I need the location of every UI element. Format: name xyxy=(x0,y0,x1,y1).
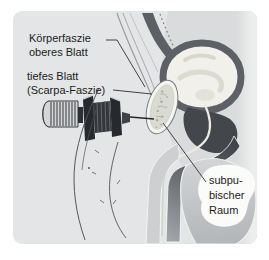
label-tiefes-blatt-scarpa-faszie: tiefes Blatt (Scarpa-Faszie) xyxy=(27,69,105,97)
label-koerperfaszie-oberes-blatt: Körperfaszie oberes Blatt xyxy=(29,31,91,59)
needle-hub xyxy=(122,112,130,124)
figure-canvas: Körperfaszie oberes Blatt tiefes Blatt (… xyxy=(0,0,269,260)
label-subpubischer-raum: subpu- bischer Raum xyxy=(209,173,244,218)
